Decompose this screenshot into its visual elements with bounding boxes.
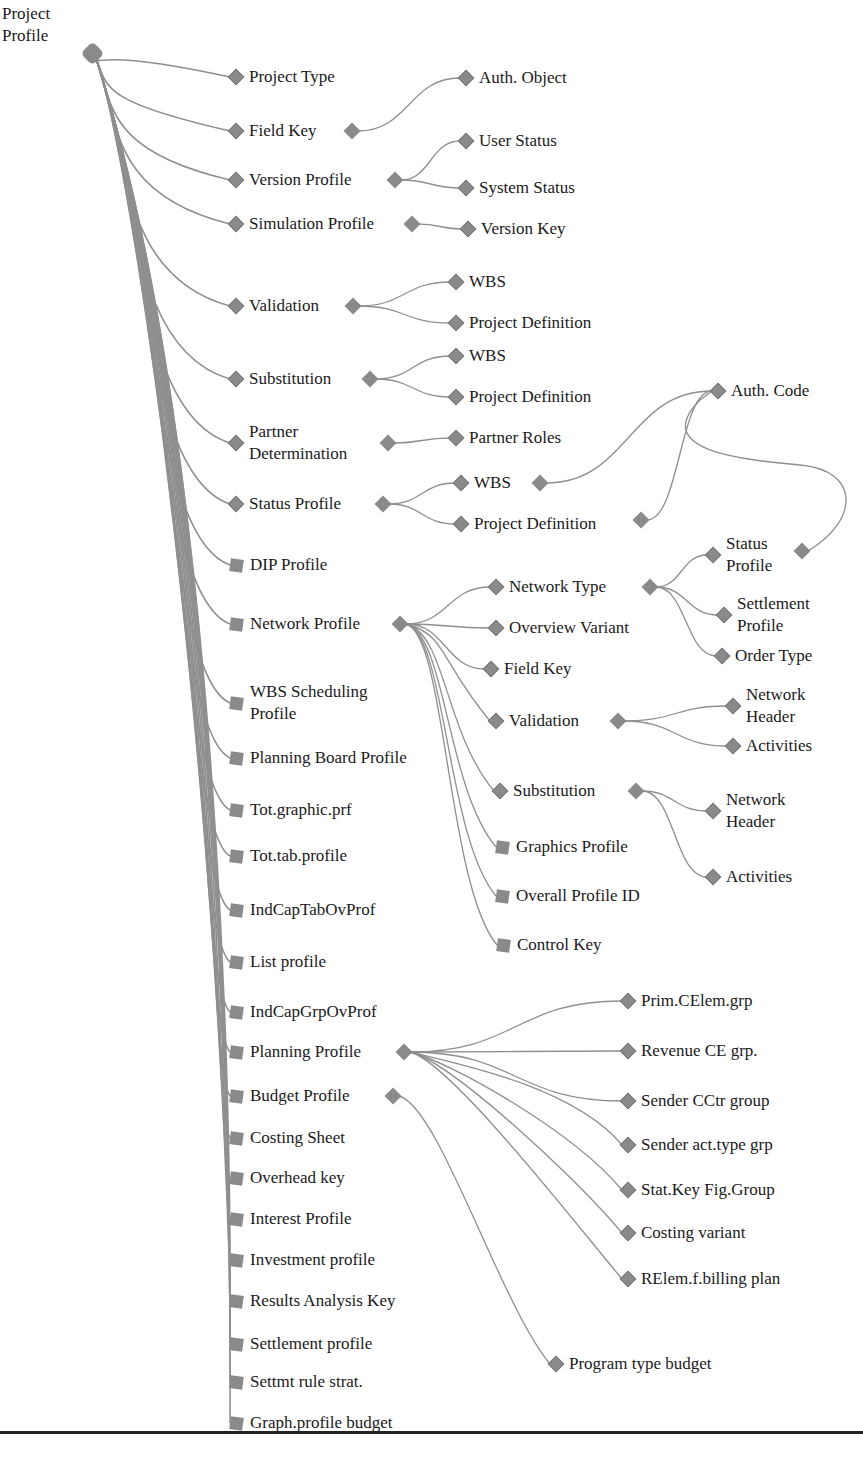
level1-node-label: Substitution — [249, 369, 331, 389]
level2-node-label: Substitution — [513, 781, 595, 801]
level1-node-label: Validation — [249, 296, 319, 316]
square-node-icon — [229, 617, 244, 632]
level3-node-label: Settlement Profile — [737, 593, 810, 637]
level2-node-label: Control Key — [517, 935, 602, 955]
diamond-node-icon — [620, 1093, 637, 1110]
level1-node: IndCapTabOvProf — [230, 900, 375, 920]
level2-node-label: WBS — [469, 346, 506, 366]
level1-node: Project Type — [230, 67, 335, 87]
level2-node-label: Project Definition — [474, 514, 596, 534]
connector-line — [376, 356, 450, 379]
level1-node-label: Costing Sheet — [250, 1128, 345, 1148]
level3-node-label: Status Profile — [726, 533, 772, 577]
level2-node: Network Type — [490, 577, 606, 597]
connector-line — [410, 1001, 622, 1052]
level1-node-label: Network Profile — [250, 614, 360, 634]
diamond-node-icon — [705, 869, 722, 886]
square-node-icon — [229, 1045, 244, 1060]
level2-node-label: Network Type — [509, 577, 606, 597]
square-node-icon — [495, 889, 510, 904]
level1-node: Validation — [230, 296, 319, 316]
level3-node-label: Network Header — [726, 789, 785, 833]
level1-node-label: Tot.tab.profile — [250, 846, 347, 866]
level2-node: User Status — [460, 131, 557, 151]
diamond-node-icon — [714, 648, 731, 665]
square-node-icon — [229, 1294, 244, 1309]
connector-line — [399, 1096, 550, 1364]
square-node-icon — [229, 1005, 244, 1020]
bottom-rule-divider — [0, 1431, 863, 1434]
connector-line — [418, 224, 462, 229]
diamond-node-icon — [548, 1356, 565, 1373]
level1-node: IndCapGrpOvProf — [230, 1002, 377, 1022]
level2-node-label: Auth. Object — [479, 68, 567, 88]
level3-node-label: Network Header — [746, 684, 805, 728]
trunk-connector-line — [96, 58, 230, 1138]
level2-node: Stat.Key Fig.Group — [622, 1180, 775, 1200]
level2-node: Overview Variant — [490, 618, 629, 638]
level2-node-label: Revenue CE grp. — [641, 1041, 758, 1061]
level2-node-label: Sender act.type grp — [641, 1135, 773, 1155]
level1-node: Tot.tab.profile — [230, 846, 347, 866]
level2-node: Substitution — [494, 781, 595, 801]
diamond-node-icon — [483, 661, 500, 678]
level2-node: Field Key — [485, 659, 572, 679]
level1-node: Substitution — [230, 369, 331, 389]
diamond-node-icon — [228, 216, 245, 233]
diamond-node-icon — [448, 274, 465, 291]
level1-node: WBS Scheduling Profile — [230, 681, 368, 725]
level1-node-label: Status Profile — [249, 494, 341, 514]
level1-node: Version Profile — [230, 170, 351, 190]
square-node-icon — [229, 1253, 244, 1268]
connector-line — [359, 282, 450, 306]
level2-node: WBS — [455, 473, 511, 493]
level1-node: DIP Profile — [230, 555, 327, 575]
diamond-node-icon — [620, 1271, 637, 1288]
level2-node-label: RElem.f.billing plan — [641, 1269, 780, 1289]
diamond-node-icon — [228, 371, 245, 388]
square-node-icon — [229, 558, 244, 573]
diamond-node-icon — [620, 1137, 637, 1154]
diamond-node-icon — [228, 69, 245, 86]
level3-node-label: Auth. Code — [731, 381, 809, 401]
level2-node-label: Graphics Profile — [516, 837, 628, 857]
level1-node: Results Analysis Key — [230, 1291, 395, 1311]
level3-node: Activities — [727, 736, 812, 756]
level1-node: Partner Determination — [230, 421, 347, 465]
level2-node-label: Field Key — [504, 659, 572, 679]
level2-node-label: WBS — [474, 473, 511, 493]
level2-node-label: Prim.CElem.grp — [641, 991, 752, 1011]
level1-node: Planning Board Profile — [230, 748, 407, 768]
level1-node-label: Settmt rule strat. — [250, 1372, 363, 1392]
square-node-icon — [229, 1089, 244, 1104]
connector-line — [376, 379, 450, 397]
trunk-connector-line — [96, 58, 230, 1178]
square-node-icon — [229, 696, 244, 711]
trunk-connector-line — [96, 58, 230, 1382]
level3-node: Settlement Profile — [718, 593, 810, 637]
level2-node: Validation — [490, 711, 579, 731]
level3-node: Network Header — [707, 789, 785, 833]
level2-node-label: Sender CCtr group — [641, 1091, 769, 1111]
level2-node: WBS — [450, 272, 506, 292]
connector-line — [389, 483, 455, 504]
level2-node-label: System Status — [479, 178, 575, 198]
connector-line — [389, 504, 455, 524]
level2-node: Partner Roles — [450, 428, 561, 448]
diamond-node-icon — [228, 496, 245, 513]
level1-node: Interest Profile — [230, 1209, 352, 1229]
connector-line — [624, 721, 727, 746]
diamond-node-icon — [228, 298, 245, 315]
level1-node-label: Version Profile — [249, 170, 351, 190]
diamond-node-icon — [453, 516, 470, 533]
connector-line — [656, 587, 718, 615]
level1-node-label: Results Analysis Key — [250, 1291, 395, 1311]
level2-node: Revenue CE grp. — [622, 1041, 758, 1061]
diamond-node-icon — [620, 1182, 637, 1199]
level1-node-label: Graph.profile budget — [250, 1413, 393, 1433]
level3-node: Status Profile — [707, 533, 772, 577]
level1-node-label: List profile — [250, 952, 326, 972]
level2-node: Auth. Object — [460, 68, 567, 88]
level1-node-label: DIP Profile — [250, 555, 327, 575]
diamond-node-icon — [620, 993, 637, 1010]
